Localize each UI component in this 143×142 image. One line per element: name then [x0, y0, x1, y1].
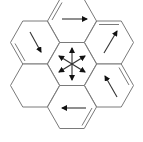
hex-grid-diagram	[0, 0, 143, 142]
